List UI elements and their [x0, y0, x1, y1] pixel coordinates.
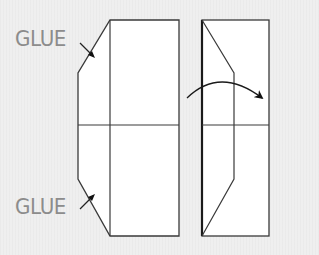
glue-label-top: GLUE: [15, 29, 66, 50]
folding-sheet: [202, 20, 269, 236]
glue-label-bottom: GLUE: [15, 197, 66, 218]
unfolded-sheet: [78, 20, 179, 236]
sheet-outline: [202, 20, 269, 236]
sheet-outline: [78, 20, 179, 236]
